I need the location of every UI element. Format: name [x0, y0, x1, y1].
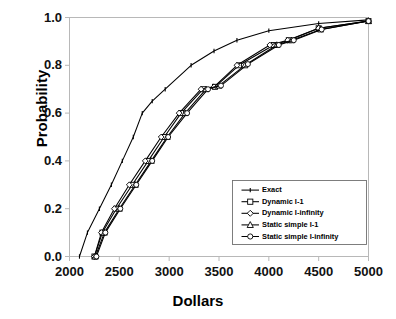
legend-item-static-simple-i-1: Static simple I-1: [262, 220, 318, 229]
legend-item-exact: Exact: [262, 185, 282, 194]
legend-item-static-simple-i-infinity: Static simple I-infinity: [262, 232, 338, 241]
y-tick-label: 1.0: [18, 10, 62, 25]
y-tick-label: 0.6: [18, 105, 62, 120]
x-tick-label: 5000: [339, 264, 396, 279]
legend-item-dynamic-i-infinity: Dynamic I-infinity: [262, 208, 324, 217]
y-tick-label: 0.8: [18, 57, 62, 72]
x-axis-title: Dollars: [0, 292, 396, 309]
legend-item-dynamic-i-1: Dynamic I-1: [262, 197, 304, 206]
y-tick-label: 0.0: [18, 249, 62, 264]
y-tick-label: 0.4: [18, 153, 62, 168]
y-tick-label: 0.2: [18, 201, 62, 216]
chart-container: Probability Dollars 0.00.20.40.60.81.0 2…: [0, 0, 396, 319]
